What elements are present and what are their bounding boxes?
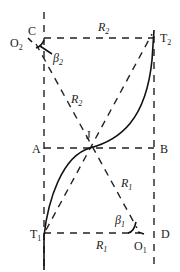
label-A: A <box>32 142 41 156</box>
label-C: C <box>28 24 36 38</box>
reverse-curve-diagram: C O2 T2 A B J T1 O1 D R2 R2 R1 R1 β2 β1 <box>0 0 180 272</box>
label-T1: T1 <box>30 227 41 243</box>
label-O2: O2 <box>10 36 23 52</box>
label-D: D <box>161 227 170 241</box>
label-R2-diag: R2 <box>70 92 82 108</box>
beta2-pointer <box>40 46 52 54</box>
label-beta2: β2 <box>52 51 63 67</box>
beta1-angle-arc <box>128 222 136 233</box>
label-R1-diag: R1 <box>120 176 132 192</box>
label-T2: T2 <box>160 31 171 47</box>
label-R2-top: R2 <box>97 20 109 36</box>
label-beta1: β1 <box>114 213 125 229</box>
label-B: B <box>160 142 168 156</box>
label-J: J <box>86 128 91 142</box>
label-R1-bottom: R1 <box>95 238 107 254</box>
label-O1: O1 <box>134 239 147 255</box>
